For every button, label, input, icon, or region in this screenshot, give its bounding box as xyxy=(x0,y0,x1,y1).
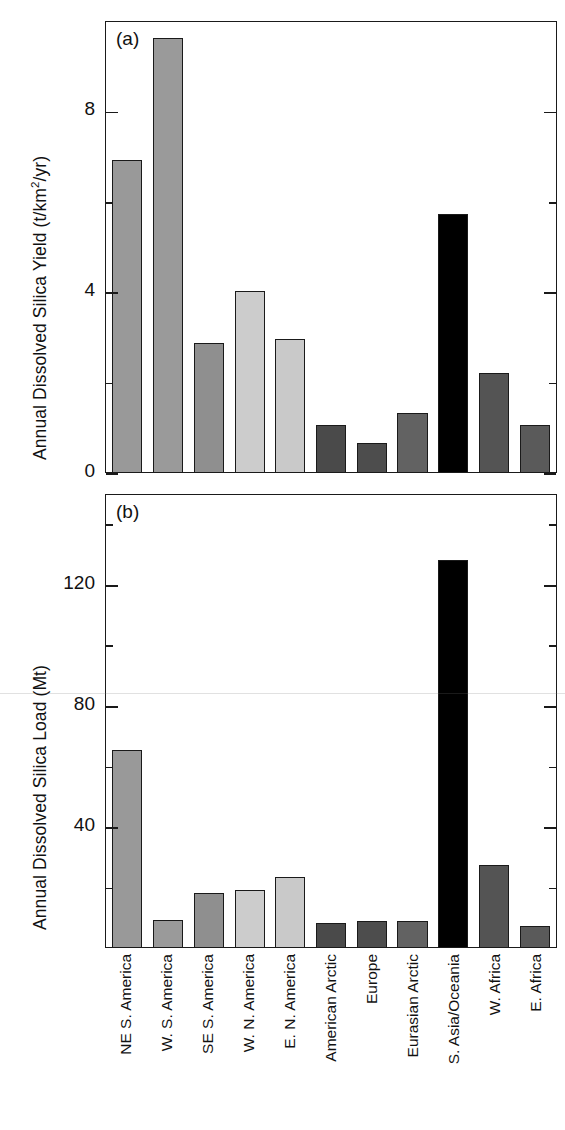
bar-slot xyxy=(392,495,433,947)
y-axis-tick xyxy=(544,706,556,708)
y-axis-tick xyxy=(106,202,113,204)
y-axis-tick xyxy=(106,888,113,890)
x-axis-category-label: SE S. America xyxy=(199,954,217,1054)
y-axis-tick-label: 40 xyxy=(35,814,95,836)
bar[interactable] xyxy=(520,425,550,472)
x-axis-category-label: W. S. America xyxy=(158,954,176,1051)
bar[interactable] xyxy=(438,560,468,947)
bar[interactable] xyxy=(316,923,346,947)
bar[interactable] xyxy=(479,373,509,472)
x-axis-category-labels: NE S. AmericaW. S. AmericaSE S. AmericaW… xyxy=(105,950,557,1128)
x-axis-label-slot: W. N. America xyxy=(228,950,269,1128)
bar-slot xyxy=(392,22,433,472)
panel-a-bar-group xyxy=(107,22,555,472)
bar-slot xyxy=(270,22,311,472)
bar-slot xyxy=(107,495,148,947)
bar[interactable] xyxy=(194,893,224,947)
bar-slot xyxy=(188,495,229,947)
panel-a-y-axis-title-main: Annual Dissolved Silica Yield (t/km xyxy=(30,188,50,460)
x-axis-label-slot: NE S. America xyxy=(105,950,146,1128)
x-axis-category-label: E. N. America xyxy=(281,954,299,1049)
y-axis-tick-label: 4 xyxy=(35,279,95,301)
bar[interactable] xyxy=(235,291,265,472)
bar[interactable] xyxy=(397,921,427,947)
bar-slot xyxy=(311,22,352,472)
y-axis-tick-label: 80 xyxy=(35,693,95,715)
bar[interactable] xyxy=(357,921,387,947)
bar-slot xyxy=(474,22,515,472)
bar[interactable] xyxy=(112,160,142,472)
bar-slot xyxy=(514,495,555,947)
x-axis-category-label: Eurasian Arctic xyxy=(404,954,422,1057)
panel-a: (a) xyxy=(105,21,557,473)
x-axis-label-slot: W. Africa xyxy=(475,950,516,1128)
y-axis-tick xyxy=(106,473,118,475)
panel-b-plot-area xyxy=(106,495,556,947)
y-axis-tick xyxy=(544,112,556,114)
bar[interactable] xyxy=(479,865,509,947)
panel-b-tag: (b) xyxy=(116,501,139,523)
x-axis-label-slot: W. S. America xyxy=(146,950,187,1128)
panel-a-y-axis-title-superscript: 2 xyxy=(29,182,41,189)
x-axis-category-label: American Arctic xyxy=(322,954,340,1062)
panel-b: (b) xyxy=(105,494,557,948)
bar[interactable] xyxy=(438,214,468,472)
panel-a-y-axis-title: Annual Dissolved Silica Yield (t/km2/yr) xyxy=(30,156,51,460)
x-axis-label-slot: Europe xyxy=(352,950,393,1128)
bar[interactable] xyxy=(397,413,427,472)
y-axis-tick xyxy=(106,706,118,708)
bar[interactable] xyxy=(275,877,305,947)
y-axis-tick xyxy=(544,827,556,829)
bar[interactable] xyxy=(520,926,550,947)
y-axis-tick xyxy=(544,473,556,475)
x-axis-category-label: E. Africa xyxy=(527,954,545,1012)
y-axis-tick xyxy=(549,767,556,769)
bar[interactable] xyxy=(194,343,224,472)
bar-slot xyxy=(311,495,352,947)
bar[interactable] xyxy=(316,425,346,472)
y-axis-tick xyxy=(106,383,113,385)
x-axis-label-slot: Eurasian Arctic xyxy=(393,950,434,1128)
bar-slot xyxy=(148,495,189,947)
bar-slot xyxy=(229,495,270,947)
y-axis-tick xyxy=(106,767,113,769)
y-axis-tick xyxy=(549,383,556,385)
bar-slot xyxy=(514,22,555,472)
scan-artifact-line xyxy=(0,693,565,694)
x-axis-label-slot: E. N. America xyxy=(269,950,310,1128)
bar-slot xyxy=(229,22,270,472)
bar-slot xyxy=(270,495,311,947)
bar-slot xyxy=(474,495,515,947)
y-axis-tick xyxy=(106,112,118,114)
bar-slot xyxy=(351,495,392,947)
bar[interactable] xyxy=(153,38,183,472)
x-axis-category-label: Europe xyxy=(363,954,381,1004)
y-axis-tick xyxy=(544,292,556,294)
y-axis-tick-label: 120 xyxy=(35,572,95,594)
x-axis-label-slot: American Arctic xyxy=(310,950,351,1128)
bar[interactable] xyxy=(235,890,265,948)
bar[interactable] xyxy=(112,750,142,947)
panel-a-plot-area xyxy=(106,22,556,472)
x-axis-category-label: W. N. America xyxy=(240,954,258,1052)
y-axis-tick xyxy=(549,524,556,526)
y-axis-tick-label: 8 xyxy=(35,98,95,120)
y-axis-tick xyxy=(106,292,118,294)
bar-slot xyxy=(433,22,474,472)
bar[interactable] xyxy=(357,443,387,472)
bar-slot xyxy=(433,495,474,947)
y-axis-tick xyxy=(549,645,556,647)
panel-b-bar-group xyxy=(107,495,555,947)
bar[interactable] xyxy=(153,920,183,947)
bar-slot xyxy=(188,22,229,472)
y-axis-tick xyxy=(549,888,556,890)
y-axis-tick xyxy=(106,524,113,526)
x-axis-category-label: W. Africa xyxy=(486,954,504,1015)
bar[interactable] xyxy=(275,339,305,472)
panel-a-tag: (a) xyxy=(116,28,139,50)
x-axis-label-slot: S. Asia/Oceania xyxy=(434,950,475,1128)
y-axis-tick xyxy=(549,202,556,204)
bar-slot xyxy=(148,22,189,472)
x-axis-category-label: S. Asia/Oceania xyxy=(445,954,463,1064)
y-axis-tick xyxy=(544,585,556,587)
